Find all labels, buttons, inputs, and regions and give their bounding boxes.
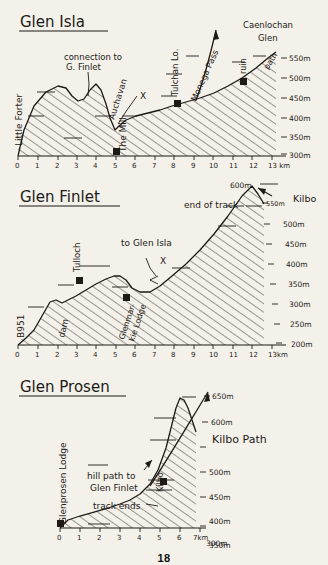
title-text-glen-finlet: Glen Finlet bbox=[20, 188, 100, 206]
ytick-isla-300: 300m bbox=[289, 151, 311, 160]
label-hill-path-1: hill path to bbox=[87, 471, 136, 481]
xtick-finlet-1: 1 bbox=[35, 351, 39, 359]
label-end-of-track: end of track bbox=[184, 200, 239, 210]
ytick-finlet-300: 300m bbox=[289, 300, 311, 309]
xtick-finlet-13: 13km bbox=[268, 351, 288, 359]
label-caenlochan-glen: Glen bbox=[258, 33, 278, 43]
xtick-prosen-1: 1 bbox=[77, 534, 81, 542]
xtick-prosen-5: 5 bbox=[157, 534, 161, 542]
xtick-prosen-2: 2 bbox=[97, 534, 101, 542]
xtick-finlet-6: 6 bbox=[132, 351, 137, 359]
xtick-isla-8: 8 bbox=[171, 162, 175, 170]
label-to-glen-isla: to Glen Isla bbox=[121, 238, 172, 248]
xtick-finlet-0: 0 bbox=[15, 351, 19, 359]
label-kilbo-prosen: Kilbo bbox=[156, 472, 165, 492]
xtick-isla-0: 0 bbox=[15, 162, 19, 170]
label-caenlochan: Caenlochan bbox=[243, 20, 293, 30]
xtick-isla-3: 3 bbox=[74, 162, 78, 170]
xtick-finlet-5: 5 bbox=[113, 351, 117, 359]
ytick-finlet-250: 250m bbox=[290, 320, 312, 329]
label-ruin: ruin bbox=[239, 58, 248, 74]
marker-glenmarkie-lodge bbox=[123, 294, 130, 301]
terrain-profiles-figure: Glen Isla bbox=[0, 0, 328, 565]
xtick-isla-12: 12 bbox=[249, 162, 258, 170]
marker-tulloch bbox=[76, 277, 83, 284]
ytick-finlet-550: 550m bbox=[266, 200, 285, 208]
xtick-finlet-8: 8 bbox=[171, 351, 175, 359]
ytick-finlet-450: 450m bbox=[285, 240, 307, 249]
ytick-finlet-350: 350m bbox=[288, 280, 310, 289]
ytick-prosen-450: 450m bbox=[209, 493, 231, 502]
xtick-finlet-9: 9 bbox=[191, 351, 195, 359]
ytick-isla-500: 500m bbox=[289, 74, 311, 83]
ytick-prosen-650: 650m bbox=[212, 392, 234, 401]
xtick-isla-6: 6 bbox=[132, 162, 137, 170]
label-the-mill: The Mill bbox=[118, 117, 128, 153]
label-tulloch: Tulloch bbox=[72, 243, 82, 273]
xtick-prosen-6: 6 bbox=[177, 534, 182, 542]
ytick-finlet-200: 200m bbox=[291, 340, 313, 349]
xtick-prosen-0: 0 bbox=[57, 534, 61, 542]
label-connection-to: connection to bbox=[64, 52, 122, 62]
label-hill-path-2: Glen Finlet bbox=[90, 483, 138, 493]
ytick-isla-400: 400m bbox=[289, 114, 311, 123]
xtick-prosen-4: 4 bbox=[137, 534, 142, 542]
xtick-isla-7: 7 bbox=[152, 162, 156, 170]
xtick-finlet-7: 7 bbox=[152, 351, 156, 359]
ytick-prosen-400: 400m bbox=[209, 517, 231, 526]
marker-tulchan-lo bbox=[174, 100, 181, 107]
x-tick-labels-glen-isla: 0 1 2 3 4 5 6 7 8 9 10 11 12 13 km bbox=[15, 162, 290, 170]
label-little-forter: Little Forter bbox=[14, 93, 24, 146]
label-b951: B951 bbox=[16, 315, 26, 338]
ytick-finlet-400: 400m bbox=[286, 260, 308, 269]
label-glenprosen-lodge: Glenprosen Lodge bbox=[58, 442, 68, 524]
xtick-isla-9: 9 bbox=[191, 162, 195, 170]
ytick-finlet-500: 500m bbox=[283, 220, 305, 229]
ytick-prosen-600: 600m bbox=[211, 418, 233, 427]
xtick-isla-11: 11 bbox=[229, 162, 238, 170]
xtick-isla-5: 5 bbox=[113, 162, 117, 170]
xtick-finlet-12: 12 bbox=[249, 351, 258, 359]
title-text-glen-isla: Glen Isla bbox=[20, 13, 85, 31]
ytick-finlet-600: 600m bbox=[230, 181, 252, 190]
ytick-prosen-300: 300m bbox=[206, 539, 228, 548]
ytick-isla-350: 350m bbox=[289, 133, 311, 142]
ytick-isla-450: 450m bbox=[289, 94, 311, 103]
marker-ruin bbox=[240, 78, 247, 85]
xtick-finlet-3: 3 bbox=[74, 351, 78, 359]
ytick-prosen-500: 500m bbox=[209, 468, 231, 477]
xtick-prosen-3: 3 bbox=[117, 534, 121, 542]
page-number: 18 bbox=[0, 552, 328, 564]
xtick-isla-4: 4 bbox=[93, 162, 98, 170]
xtick-isla-1: 1 bbox=[35, 162, 39, 170]
ytick-isla-550: 550m bbox=[289, 54, 311, 63]
scanned-page: Glen Isla bbox=[0, 0, 328, 565]
label-track-ends: track ends bbox=[93, 501, 141, 511]
label-connection-g-finlet: G. Finlet bbox=[66, 62, 102, 72]
label-x-isla: X bbox=[140, 91, 146, 101]
xtick-finlet-2: 2 bbox=[55, 351, 59, 359]
label-kilbo-path: Kilbo Path bbox=[212, 433, 267, 446]
xtick-isla-2: 2 bbox=[55, 162, 59, 170]
xtick-finlet-4: 4 bbox=[93, 351, 98, 359]
label-x-finlet: X bbox=[160, 256, 166, 266]
xtick-isla-10: 10 bbox=[209, 162, 218, 170]
title-text-glen-prosen: Glen Prosen bbox=[20, 378, 110, 396]
xtick-isla-13: 13 km bbox=[268, 162, 290, 170]
xtick-finlet-10: 10 bbox=[209, 351, 218, 359]
label-kilbo-finlet: Kilbo bbox=[293, 193, 317, 204]
xtick-finlet-11: 11 bbox=[229, 351, 238, 359]
label-tulchan-lo: Tulchan Lo. bbox=[170, 49, 180, 97]
